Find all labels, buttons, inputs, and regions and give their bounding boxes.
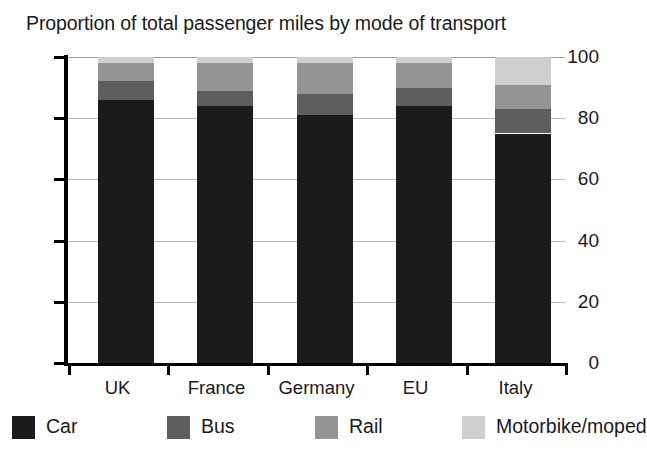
bar-segment-bus[interactable] — [396, 88, 452, 106]
legend-item-car[interactable]: Car — [12, 412, 77, 442]
x-axis-tick — [366, 363, 369, 375]
legend-item-motorbike-moped[interactable]: Motorbike/moped — [462, 412, 647, 442]
bar-segment-motorbike-moped[interactable] — [396, 57, 452, 63]
bar-segment-motorbike-moped[interactable] — [297, 57, 353, 63]
legend-swatch-icon — [315, 416, 338, 439]
y-axis-tick — [54, 362, 66, 365]
legend-label: Car — [46, 417, 77, 437]
bar-segment-car[interactable] — [396, 106, 452, 363]
x-axis-label-italy: Italy — [466, 378, 565, 398]
bar-segment-bus[interactable] — [197, 91, 253, 106]
y-axis-tick — [54, 117, 66, 120]
bar-stack-eu[interactable] — [396, 57, 452, 363]
x-axis-tick — [167, 363, 170, 375]
x-axis-tick — [68, 363, 71, 375]
chart-title: Proportion of total passenger miles by m… — [26, 12, 506, 35]
bar-segment-bus[interactable] — [98, 81, 154, 99]
legend-label: Rail — [349, 417, 383, 437]
bar-segment-motorbike-moped[interactable] — [197, 57, 253, 63]
x-axis-tick — [267, 363, 270, 375]
bar-stack-germany[interactable] — [297, 57, 353, 363]
legend-swatch-icon — [167, 416, 190, 439]
bar-segment-car[interactable] — [98, 100, 154, 363]
legend-label: Bus — [201, 417, 235, 437]
x-axis-line — [66, 363, 566, 366]
bar-segment-motorbike-moped[interactable] — [98, 57, 154, 63]
bar-segment-bus[interactable] — [495, 109, 551, 133]
bar-segment-car[interactable] — [197, 106, 253, 363]
chart-legend: CarBusRailMotorbike/moped — [12, 412, 592, 446]
legend-item-bus[interactable]: Bus — [167, 412, 235, 442]
bar-segment-rail[interactable] — [396, 63, 452, 87]
plot-area — [68, 57, 565, 363]
bar-segment-rail[interactable] — [98, 63, 154, 81]
x-axis-label-eu: EU — [366, 378, 465, 398]
y-axis-tick — [54, 240, 66, 243]
legend-label: Motorbike/moped — [496, 417, 647, 437]
bar-stack-uk[interactable] — [98, 57, 154, 363]
bar-segment-car[interactable] — [495, 134, 551, 364]
x-axis-label-germany: Germany — [267, 378, 366, 398]
x-axis-tick — [466, 363, 469, 375]
bar-segment-rail[interactable] — [495, 85, 551, 109]
legend-swatch-icon — [12, 416, 35, 439]
bars-layer — [68, 57, 565, 363]
x-axis-label-uk: UK — [68, 378, 167, 398]
y-axis-tick — [54, 301, 66, 304]
bar-stack-italy[interactable] — [495, 57, 551, 363]
bar-segment-rail[interactable] — [197, 63, 253, 91]
x-axis-label-france: France — [167, 378, 266, 398]
legend-swatch-icon — [462, 416, 485, 439]
bar-segment-bus[interactable] — [297, 94, 353, 115]
x-axis-tick — [565, 363, 568, 375]
y-axis-tick — [54, 178, 66, 181]
bar-segment-car[interactable] — [297, 115, 353, 363]
bar-stack-france[interactable] — [197, 57, 253, 363]
legend-item-rail[interactable]: Rail — [315, 412, 383, 442]
bar-segment-motorbike-moped[interactable] — [495, 57, 551, 85]
y-axis-tick — [54, 56, 66, 59]
bar-segment-rail[interactable] — [297, 63, 353, 94]
